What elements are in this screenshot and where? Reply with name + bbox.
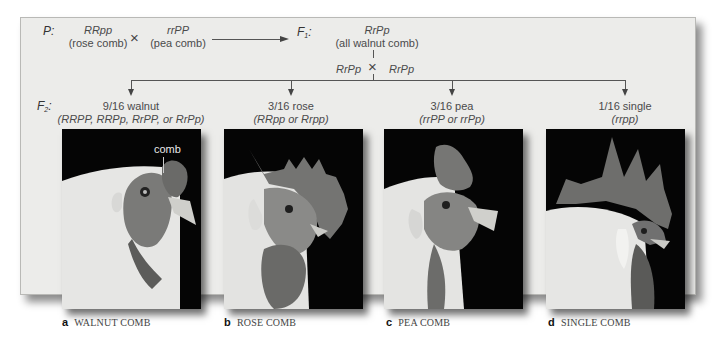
arrow-right-icon bbox=[280, 36, 289, 42]
parent2-phenotype: (pea comb) bbox=[150, 37, 206, 49]
rose-comb-chicken-photo bbox=[224, 129, 363, 309]
f2-ratio-walnut: 9/16 walnut bbox=[103, 100, 159, 112]
f2-ratio-single: 1/16 single bbox=[598, 100, 651, 112]
single-comb-rooster-photo bbox=[546, 129, 685, 309]
p-generation-label: P: bbox=[43, 25, 54, 37]
f1-phenotype: (all walnut comb) bbox=[335, 37, 418, 49]
f1-connector bbox=[373, 50, 374, 58]
cross-symbol: × bbox=[130, 31, 139, 45]
caption-d: dSINGLE COMB bbox=[548, 316, 631, 328]
f1-generation-label: F1: bbox=[297, 26, 312, 42]
f2-genotypes-pea: (rrPP or rrPp) bbox=[419, 113, 485, 125]
arrow-down-icon bbox=[622, 89, 628, 96]
f2-genotypes-walnut: (RRPP, RRPp, RrPP, or RrPp) bbox=[58, 113, 205, 125]
f2-ratio-rose: 3/16 rose bbox=[268, 100, 314, 112]
selfcross-symbol: × bbox=[368, 60, 377, 74]
caption-a: aWALNUT COMB bbox=[62, 316, 151, 328]
caption-b: bROSE COMB bbox=[224, 316, 296, 328]
walnut-comb-chicken-photo: comb bbox=[62, 129, 201, 309]
f1-selfcross-left: RrPp bbox=[336, 63, 361, 75]
comb-annotation: comb bbox=[154, 143, 181, 155]
arrow-down-icon bbox=[449, 89, 455, 96]
caption-c: cPEA COMB bbox=[386, 316, 450, 328]
arrow-to-f1-line bbox=[212, 39, 282, 40]
f2-generation-label: F2: bbox=[37, 100, 52, 116]
parent2-genotype: rrPP bbox=[167, 24, 189, 36]
comb-pointer-line bbox=[163, 157, 164, 173]
f1-selfcross-right: RrPp bbox=[389, 63, 414, 75]
parent1-genotype: RRpp bbox=[84, 24, 112, 36]
pea-comb-chicken-photo bbox=[384, 129, 523, 309]
parent1-phenotype: (rose comb) bbox=[69, 37, 128, 49]
f2-genotypes-single: (rrpp) bbox=[612, 113, 639, 125]
f2-ratio-pea: 3/16 pea bbox=[431, 100, 474, 112]
arrow-down-icon bbox=[288, 89, 294, 96]
f1-genotype: RrPp bbox=[364, 24, 389, 36]
f2-branch-line bbox=[131, 80, 626, 81]
f2-genotypes-rose: (RRpp or Rrpp) bbox=[253, 113, 328, 125]
arrow-down-icon bbox=[128, 89, 134, 96]
